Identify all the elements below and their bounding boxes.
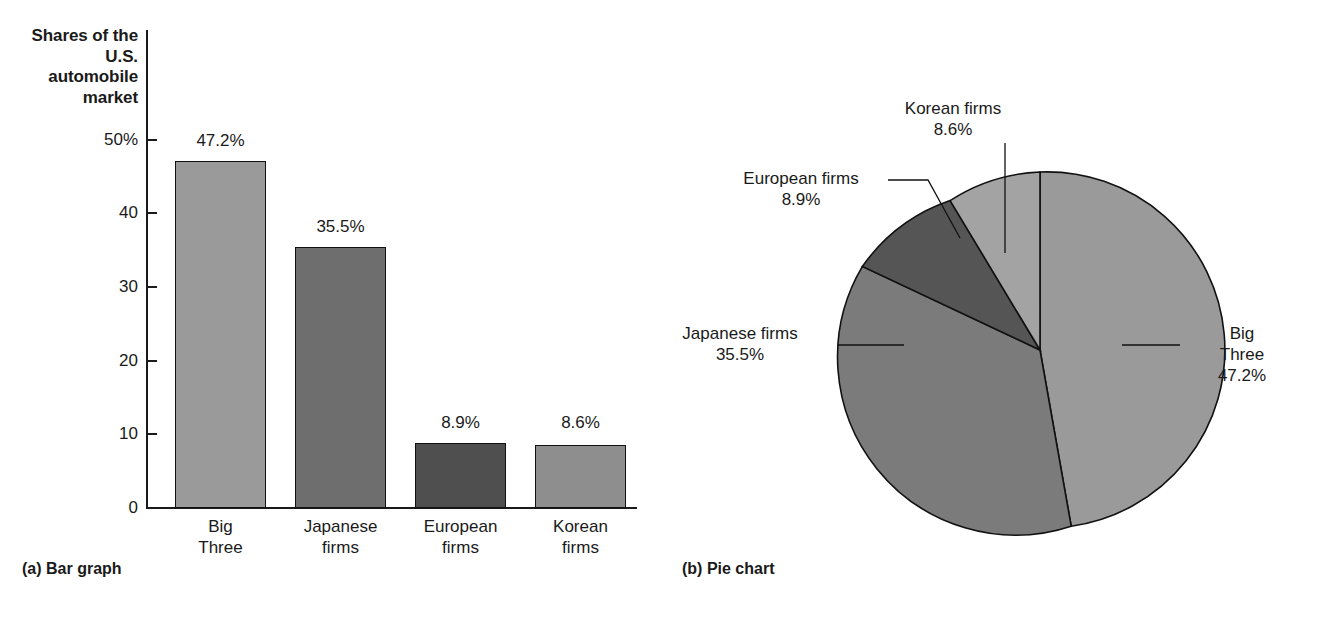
y-tick-label-20: 20 bbox=[18, 352, 138, 369]
pie-label-japanese-firms: Japanese firms 35.5% bbox=[645, 323, 835, 365]
bar-european-firms bbox=[415, 443, 506, 508]
pie-label-big-three: Big Three 47.2% bbox=[1190, 323, 1294, 386]
bar-japanese-firms bbox=[295, 247, 386, 508]
y-tick-label-30: 30 bbox=[18, 278, 138, 295]
y-tick-label-50: 50% bbox=[18, 131, 138, 148]
bar-value-big-three: 47.2% bbox=[160, 132, 281, 149]
pie-label-korean-firms: Korean firms 8.6% bbox=[878, 98, 1028, 140]
y-tick-30 bbox=[148, 286, 157, 288]
y-tick-50 bbox=[148, 139, 157, 141]
y-tick-label-40: 40 bbox=[18, 204, 138, 221]
pie-label-european-firms: European firms 8.9% bbox=[716, 168, 886, 210]
y-tick-label-0: 0 bbox=[18, 499, 138, 516]
y-tick-40 bbox=[148, 212, 157, 214]
figure-shares-of-us-automobile-market: Shares of the U.S. automobile market 50%… bbox=[0, 0, 1328, 619]
panel-caption-a: (a) Bar graph bbox=[22, 560, 122, 578]
y-tick-20 bbox=[148, 360, 157, 362]
pie-chart-graphic bbox=[660, 0, 1328, 619]
bar-value-japanese-firms: 35.5% bbox=[280, 218, 401, 235]
bar-value-european-firms: 8.9% bbox=[400, 414, 521, 431]
bar-graph-panel: Shares of the U.S. automobile market 50%… bbox=[0, 0, 680, 619]
bar-korean-firms bbox=[535, 445, 626, 508]
pie-chart-panel: Korean firms 8.6% European firms 8.9% Ja… bbox=[660, 0, 1328, 619]
bar-value-korean-firms: 8.6% bbox=[520, 414, 641, 431]
bar-big-three bbox=[175, 161, 266, 508]
bar-category-japanese-firms: Japanese firms bbox=[280, 516, 401, 558]
y-tick-label-10: 10 bbox=[18, 425, 138, 442]
panel-caption-b: (b) Pie chart bbox=[682, 560, 774, 578]
y-axis-title: Shares of the U.S. automobile market bbox=[18, 26, 138, 108]
y-tick-10 bbox=[148, 433, 157, 435]
bar-category-european-firms: European firms bbox=[400, 516, 521, 558]
bar-category-big-three: Big Three bbox=[160, 516, 281, 558]
y-axis-line bbox=[146, 30, 148, 509]
bar-category-korean-firms: Korean firms bbox=[520, 516, 641, 558]
